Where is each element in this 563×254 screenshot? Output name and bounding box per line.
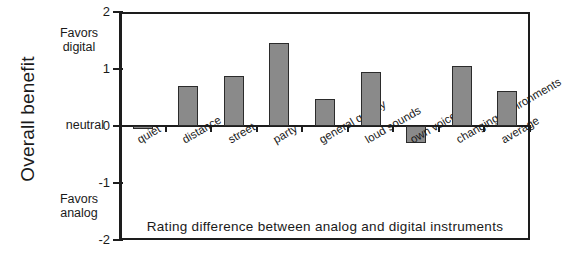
favors-digital-line2: digital	[42, 40, 116, 54]
favors-digital-note: Favors digital	[42, 26, 116, 54]
favors-digital-line1: Favors	[42, 26, 116, 40]
x-tick	[301, 125, 303, 132]
bar-party	[269, 43, 289, 126]
y-tick-label: 2	[66, 5, 110, 18]
bar-general-quality	[315, 99, 335, 126]
favors-analog-note: Favors analog	[42, 192, 116, 220]
y-tick	[113, 68, 123, 70]
bar-distance	[178, 86, 198, 126]
y-tick	[113, 11, 123, 13]
y-tick	[113, 239, 123, 241]
y-axis-title: Overall benefit	[17, 29, 39, 209]
bar-changing-environments	[452, 66, 472, 126]
bar-street	[224, 76, 244, 126]
bar-average	[497, 91, 517, 126]
y-tick	[113, 182, 123, 184]
x-tick	[165, 125, 167, 132]
y-tick-label: -1	[66, 176, 110, 189]
neutral-note: neutral	[38, 118, 104, 132]
chart-caption: Rating difference between analog and dig…	[120, 219, 530, 234]
bar-loud-sounds	[361, 72, 381, 126]
y-tick-label: 1	[66, 62, 110, 75]
favors-analog-line1: Favors	[42, 192, 116, 206]
y-tick-label: -2	[66, 233, 110, 246]
favors-analog-line2: analog	[42, 206, 116, 220]
